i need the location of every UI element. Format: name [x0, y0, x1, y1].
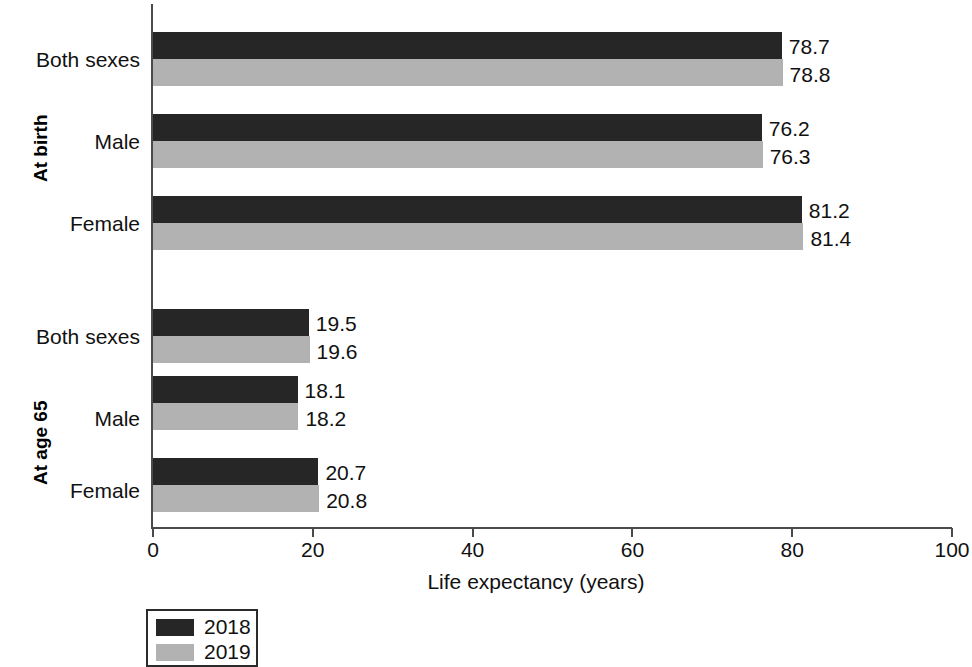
bar-birth-both-2018	[153, 32, 782, 59]
x-tick-40	[472, 528, 474, 537]
bar-birth-male-2018	[153, 114, 762, 141]
bar-birth-male-2019	[153, 141, 763, 168]
category-label-birth-both-sexes: Both sexes	[0, 49, 140, 71]
bar-age65-male-2019	[153, 403, 298, 430]
bar-age65-male-2018	[153, 376, 298, 403]
x-axis-title-text: Life expectancy (years)	[427, 570, 644, 594]
x-tick-label-80: 80	[752, 538, 832, 562]
category-label-age65-male: Male	[0, 408, 140, 430]
bar-value-age65-male-2018: 18.1	[305, 380, 346, 402]
x-tick-80	[791, 528, 793, 537]
bar-age65-female-2019	[153, 485, 319, 512]
x-axis-line	[151, 527, 952, 529]
bar-value-birth-both-2019: 78.8	[790, 64, 831, 86]
legend-swatch-2019-icon	[156, 644, 194, 661]
bar-value-birth-female-2018: 81.2	[809, 200, 850, 222]
x-tick-0	[152, 528, 154, 537]
bar-age65-both-2018	[153, 309, 309, 336]
bar-birth-both-2019	[153, 59, 783, 86]
bar-value-birth-female-2019: 81.4	[810, 228, 851, 250]
x-tick-label-40: 40	[433, 538, 513, 562]
bar-birth-female-2018	[153, 196, 802, 223]
x-axis-title: Life expectancy (years)	[0, 570, 972, 594]
x-tick-100	[951, 528, 953, 537]
legend-label-2019: 2019	[204, 640, 251, 664]
bar-value-age65-female-2018: 20.7	[325, 462, 366, 484]
legend-swatch-2018-icon	[156, 619, 194, 636]
bar-value-birth-male-2019: 76.3	[770, 146, 811, 168]
x-tick-20	[312, 528, 314, 537]
bar-age65-both-2019	[153, 336, 310, 363]
bar-birth-female-2019	[153, 223, 803, 250]
x-tick-label-60: 60	[592, 538, 672, 562]
x-tick-label-100: 100	[912, 538, 972, 562]
category-label-birth-female: Female	[0, 213, 140, 235]
bar-value-age65-male-2019: 18.2	[305, 408, 346, 430]
legend-label-2018: 2018	[204, 615, 251, 639]
bar-value-birth-both-2018: 78.7	[789, 36, 830, 58]
bar-value-age65-both-2018: 19.5	[316, 313, 357, 335]
category-label-age65-female: Female	[0, 480, 140, 502]
legend: 2018 2019	[146, 609, 258, 667]
category-label-birth-male: Male	[0, 131, 140, 153]
category-label-age65-both-sexes: Both sexes	[0, 326, 140, 348]
bar-value-age65-female-2019: 20.8	[326, 490, 367, 512]
x-tick-60	[631, 528, 633, 537]
bar-value-age65-both-2019: 19.6	[317, 341, 358, 363]
bar-value-birth-male-2018: 76.2	[769, 118, 810, 140]
x-tick-label-20: 20	[273, 538, 353, 562]
bar-age65-female-2018	[153, 458, 318, 485]
x-tick-label-0: 0	[113, 538, 193, 562]
